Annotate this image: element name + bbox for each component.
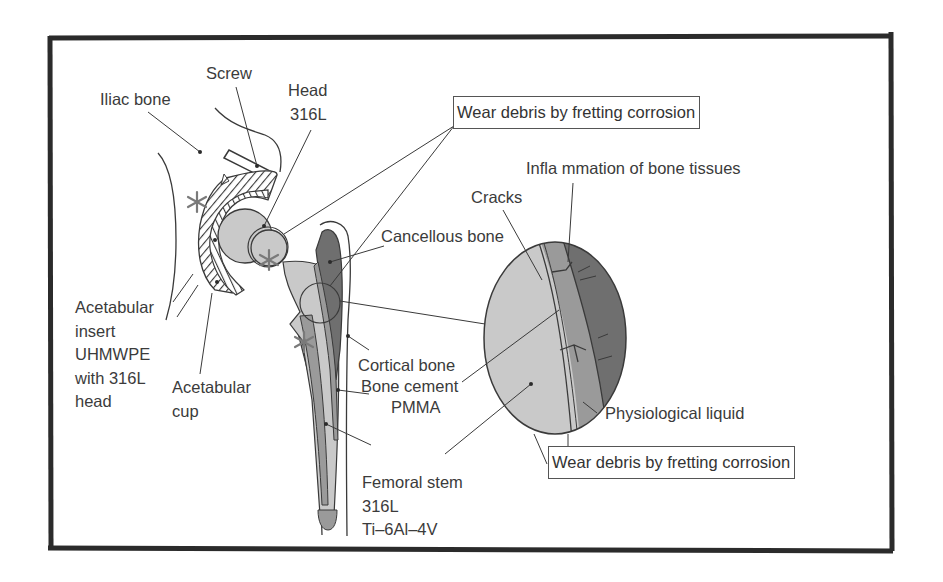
label-bone-cement-material: PMMA xyxy=(391,397,441,417)
label-physiological-liquid: Physiological liquid xyxy=(605,403,744,423)
stem-tip xyxy=(318,510,337,530)
label-cracks: Cracks xyxy=(471,187,522,207)
callout-wear-debris-top: Wear debris by fretting corrosion xyxy=(453,96,700,129)
label-femoral-stem-material-2: Ti–6Al–4V xyxy=(362,519,438,539)
label-cortical-bone: Cortical bone xyxy=(358,355,455,375)
label-head: Head xyxy=(288,80,327,100)
label-femoral-stem-material-1: 316L xyxy=(362,496,399,516)
label-femoral-stem: Femoral stem xyxy=(362,472,463,492)
label-head-material: 316L xyxy=(290,104,327,124)
label-bone-cement: Bone cement xyxy=(361,376,458,396)
label-acetabular-cup: Acetabular cup xyxy=(172,375,251,423)
hip-implant-diagram xyxy=(0,0,943,582)
label-screw: Screw xyxy=(206,63,252,83)
femoral-head xyxy=(218,209,288,267)
label-acetabular-insert: Acetabular insert UHMWPE with 316L head xyxy=(75,296,154,414)
label-cancellous-bone: Cancellous bone xyxy=(381,226,504,246)
callout-wear-debris-bottom: Wear debris by fretting corrosion xyxy=(548,446,795,479)
label-inflammation: Infla mmation of bone tissues xyxy=(526,158,741,178)
label-iliac-bone: Iliac bone xyxy=(100,89,171,109)
asterisk-icon xyxy=(188,192,206,212)
